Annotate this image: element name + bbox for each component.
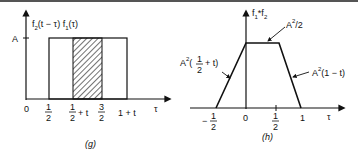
svg-text:1: 1 xyxy=(273,111,278,121)
svg-text:+ t: + t xyxy=(78,108,89,118)
svg-text:1: 1 xyxy=(211,111,216,121)
svg-text:2: 2 xyxy=(197,65,202,75)
arrow-falling xyxy=(293,72,309,77)
y-axis-label: f2(t − τ) f1(τ) xyxy=(32,19,78,31)
panel-h: f1*f2 A2/2 A2( 1 2 + t) A2(1 − t) xyxy=(180,8,345,142)
y-axis-label: f1*f2 xyxy=(252,8,268,20)
svg-text:−: − xyxy=(202,116,207,126)
x-tick-0: 0 xyxy=(24,104,29,114)
svg-text:2: 2 xyxy=(99,113,104,123)
x-tick-half-plus-t: 1 2 + t xyxy=(69,102,89,123)
svg-text:2: 2 xyxy=(46,113,51,123)
svg-text:2: 2 xyxy=(273,122,278,132)
annotation-falling: A2(1 − t) xyxy=(312,66,345,78)
y-tick-label-a: A xyxy=(12,34,18,44)
annotation-rising: A2( 1 2 + t) xyxy=(180,54,218,75)
svg-text:1: 1 xyxy=(46,102,51,112)
svg-text:2: 2 xyxy=(211,122,216,132)
svg-text:A2(: A2( xyxy=(180,56,192,68)
svg-text:1: 1 xyxy=(197,54,202,64)
x-tick-1: 1 xyxy=(300,113,305,123)
x-tick-half: 1 2 xyxy=(272,111,279,132)
panel-g: f2(t − τ) f1(τ) A 0 1 2 1 2 + t 3 2 1 + … xyxy=(12,13,168,149)
caption-g: (g) xyxy=(85,139,96,149)
annotation-plateau: A2/2 xyxy=(286,18,303,30)
overlap-hatched-region xyxy=(73,38,102,99)
convolution-diagram: f2(t − τ) f1(τ) A 0 1 2 1 2 + t 3 2 1 + … xyxy=(0,0,358,157)
x-axis-label-tau: τ xyxy=(154,104,158,114)
trapezoid-curve xyxy=(216,43,301,108)
caption-h: (h) xyxy=(262,132,273,142)
x-tick-neg-half: − 1 2 xyxy=(202,111,217,132)
svg-text:2: 2 xyxy=(70,113,75,123)
arrow-rising xyxy=(222,72,230,78)
svg-text:3: 3 xyxy=(99,102,104,112)
x-tick-0: 0 xyxy=(243,113,248,123)
x-tick-three-halves: 3 2 xyxy=(98,102,105,123)
svg-text:1: 1 xyxy=(70,102,75,112)
arrow-plateau xyxy=(268,27,285,41)
svg-text:+ t): + t) xyxy=(205,58,218,68)
x-tick-1-plus-t: 1 + t xyxy=(118,108,136,118)
x-axis-label-tau: τ xyxy=(327,112,331,122)
x-tick-half: 1 2 xyxy=(45,102,52,123)
